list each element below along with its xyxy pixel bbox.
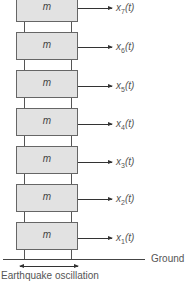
displacement-arrow-4: [78, 124, 112, 125]
ground-line: [3, 259, 145, 260]
displacement-arrow-3: [78, 162, 112, 163]
mass-block-3: m: [16, 146, 78, 174]
mass-label: m: [17, 77, 77, 88]
mass-block-2: m: [16, 184, 78, 212]
ground-label: Ground: [151, 253, 184, 264]
displacement-arrow-5: [78, 86, 112, 87]
mass-block-4: m: [16, 108, 78, 136]
earthquake-double-arrow-icon: [20, 266, 78, 267]
mass-block-1: m: [16, 222, 78, 250]
displacement-label-4: x4(t): [116, 118, 134, 131]
mass-label: m: [17, 39, 77, 50]
displacement-label-3: x3(t): [116, 156, 134, 169]
displacement-label-1: x1(t): [116, 232, 134, 245]
mass-label: m: [17, 191, 77, 202]
mass-label: m: [17, 115, 77, 126]
earthquake-oscillation-label: Earthquake oscillation: [1, 270, 99, 281]
mass-label: m: [17, 1, 77, 12]
mass-block-5: m: [16, 70, 78, 98]
displacement-arrow-2: [78, 199, 112, 200]
mass-block-6: m: [16, 32, 78, 60]
displacement-arrow-6: [78, 47, 112, 48]
displacement-arrow-7: [78, 8, 112, 9]
displacement-label-5: x5(t): [116, 80, 134, 93]
displacement-label-2: x2(t): [116, 193, 134, 206]
mass-block-7: m: [16, 0, 78, 22]
displacement-arrow-1: [78, 238, 112, 239]
displacement-label-7: x7(t): [116, 2, 134, 15]
mass-label: m: [17, 153, 77, 164]
mass-label: m: [17, 229, 77, 240]
displacement-label-6: x6(t): [116, 41, 134, 54]
